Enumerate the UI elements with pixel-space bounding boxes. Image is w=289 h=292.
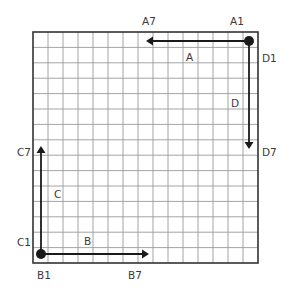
- label-c1: C1: [17, 237, 31, 248]
- label-a7: A7: [142, 16, 156, 27]
- label-d1: D1: [262, 53, 277, 64]
- label-c7: C7: [17, 147, 31, 158]
- arrowhead-icon: [37, 146, 46, 153]
- grid-diagram: A7 A1 A D1 D D7 C7 C C1 B B1 B7: [0, 0, 289, 292]
- label-b: B: [84, 236, 91, 247]
- start-dot-origin-a-d: [244, 36, 254, 46]
- arrow-d: [245, 41, 254, 149]
- label-a: A: [186, 52, 193, 63]
- label-b1: B1: [37, 270, 51, 281]
- arrowhead-icon: [245, 142, 254, 149]
- grid-lines: [33, 32, 258, 263]
- label-b7: B7: [128, 270, 142, 281]
- arrow-c: [37, 146, 46, 254]
- label-a1: A1: [230, 16, 244, 27]
- grid: [0, 0, 289, 292]
- label-c: C: [54, 189, 61, 200]
- arrow-a: [146, 37, 249, 46]
- grid-border: [33, 32, 258, 263]
- label-d: D: [231, 98, 239, 109]
- arrowhead-icon: [146, 37, 153, 46]
- arrowhead-icon: [142, 250, 149, 259]
- start-dot-origin-b-c: [36, 249, 46, 259]
- arrows: [37, 37, 254, 259]
- arrow-b: [41, 250, 149, 259]
- label-d7: D7: [262, 147, 277, 158]
- dots: [36, 36, 254, 259]
